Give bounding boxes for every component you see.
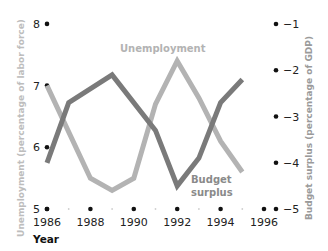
unemployment-label: Unemployment: [120, 43, 206, 54]
right-tick-label: −3: [283, 111, 299, 124]
left-tick-label: 8: [33, 18, 40, 31]
x-minor-tick: [68, 208, 70, 210]
right-tick-dot: [274, 160, 279, 165]
right-axis: −1−2−3−4−5: [274, 18, 300, 216]
x-minor-tick: [155, 208, 157, 210]
left-tick-label: 7: [33, 80, 40, 93]
x-tick-dot: [88, 207, 93, 212]
x-minor-tick: [198, 208, 200, 210]
right-tick-label: −5: [283, 203, 299, 216]
left-tick-dot: [45, 145, 50, 150]
right-tick-dot: [274, 22, 279, 27]
left-axis-title: Unemployment (percentage of labor force): [16, 19, 26, 237]
x-minor-tick: [111, 208, 113, 210]
x-tick-label: 1992: [163, 216, 191, 229]
right-tick-dot: [274, 207, 279, 212]
budget-surplus-label-line1: Budget: [191, 174, 232, 185]
right-tick-dot: [274, 68, 279, 73]
x-tick-dot: [45, 207, 50, 212]
x-tick-dot: [262, 207, 267, 212]
left-axis: 5678: [33, 18, 49, 216]
x-tick-label: 1996: [250, 216, 278, 229]
dual-axis-line-chart: 5678 −1−2−3−4−5 198619881990199219941996…: [0, 0, 328, 251]
right-tick-label: −1: [283, 18, 299, 31]
right-axis-title: Budget surplus (percentage of GDP): [304, 36, 314, 220]
x-tick-label: 1986: [33, 216, 61, 229]
left-tick-label: 6: [33, 141, 40, 154]
x-axis: 198619881990199219941996: [33, 207, 278, 229]
x-tick-dot: [218, 207, 223, 212]
budget-surplus-label-line2: surplus: [191, 187, 233, 198]
x-tick-label: 1988: [76, 216, 104, 229]
series-layer: [47, 61, 242, 191]
x-tick-dot: [132, 207, 137, 212]
x-tick-label: 1990: [120, 216, 148, 229]
right-tick-label: −2: [283, 64, 299, 77]
x-axis-title: Year: [32, 233, 60, 245]
right-tick-label: −4: [283, 157, 299, 170]
left-tick-label: 5: [33, 203, 40, 216]
x-minor-tick: [241, 208, 243, 210]
x-tick-dot: [175, 207, 180, 212]
x-tick-label: 1994: [207, 216, 235, 229]
left-tick-dot: [45, 22, 50, 27]
right-tick-dot: [274, 114, 279, 119]
